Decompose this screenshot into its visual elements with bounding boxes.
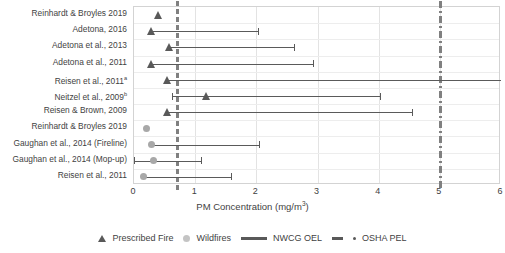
- study-label-text: Adetona et al., 2013: [52, 40, 127, 50]
- y-gridline: [134, 104, 499, 105]
- data-point-wildfires: [143, 125, 150, 132]
- study-label: Neitzel et al., 2009b: [55, 90, 128, 102]
- error-bar-cap-high: [258, 28, 259, 35]
- study-label-text: Neitzel et al., 2009: [55, 92, 124, 102]
- error-bar: [168, 112, 413, 113]
- study-label: Reisen et al., 2011: [58, 171, 127, 180]
- legend-label: OSHA PEL: [362, 233, 407, 243]
- study-label: Gaughan et al., 2014 (Fireline): [13, 139, 127, 148]
- study-label-footnote: b: [124, 91, 127, 97]
- y-gridline: [134, 39, 499, 40]
- error-bar: [168, 80, 501, 81]
- error-bar-cap-low: [134, 157, 135, 164]
- study-label-text: Reisen et al., 2011: [55, 76, 124, 86]
- error-bar: [151, 64, 312, 65]
- study-label: Adetona et al., 2011: [53, 58, 127, 67]
- y-axis-category-labels: Reinhardt & Broyles 2019Adetona, 2016Ade…: [0, 0, 130, 190]
- study-label: Reisen & Brown, 2009: [44, 106, 127, 115]
- data-point-prescribed-fire: [163, 108, 171, 116]
- error-bar-cap-high: [313, 60, 314, 67]
- x-tick-label: 5: [436, 186, 441, 196]
- study-label: Adetona et al., 2013: [52, 41, 127, 50]
- study-label-text: Reinhardt & Broyles 2019: [32, 8, 127, 18]
- x-tick-label: 6: [497, 186, 502, 196]
- legend-item-wildfires[interactable]: Wildfires: [183, 233, 231, 243]
- data-point-wildfires: [140, 173, 147, 180]
- legend-label: NWCG OEL: [273, 233, 322, 243]
- chart-container: Reinhardt & Broyles 2019Adetona, 2016Ade…: [0, 0, 505, 253]
- data-point-prescribed-fire: [147, 27, 155, 35]
- legend-dash-dot-line-icon: [332, 237, 343, 240]
- data-point-wildfires: [148, 141, 155, 148]
- y-gridline: [134, 72, 499, 73]
- data-point-prescribed-fire: [163, 76, 171, 84]
- y-gridline: [134, 88, 499, 89]
- plot-area: [133, 6, 500, 184]
- study-label-text: Gaughan et al., 2014 (Mop-up): [12, 154, 127, 164]
- x-tick-label: 4: [375, 186, 380, 196]
- y-gridline: [134, 56, 499, 57]
- error-bar: [134, 161, 201, 162]
- error-bar: [151, 145, 259, 146]
- legend-label: Prescribed Fire: [112, 233, 173, 243]
- x-gridline: [195, 7, 196, 183]
- legend-item-osha-pel[interactable]: OSHA PEL: [332, 233, 407, 243]
- legend-dot-icon: [353, 237, 356, 240]
- y-gridline: [134, 23, 499, 24]
- x-tick-label: 3: [314, 186, 319, 196]
- study-label: Reinhardt & Broyles 2019: [32, 9, 127, 18]
- study-label-text: Reisen & Brown, 2009: [44, 105, 127, 115]
- legend-item-prescribed-fire[interactable]: Prescribed Fire: [98, 233, 173, 243]
- data-point-prescribed-fire: [154, 11, 162, 19]
- legend-circle-icon: [183, 235, 190, 242]
- y-gridline: [134, 153, 499, 154]
- legend-solid-line-icon: [241, 237, 267, 240]
- y-gridline: [134, 120, 499, 121]
- x-axis-title-tail: ): [306, 201, 309, 212]
- study-label-text: Adetona et al., 2011: [53, 57, 127, 67]
- x-tick-label: 1: [192, 186, 197, 196]
- study-label-text: Adetona, 2016: [73, 24, 128, 34]
- legend-label: Wildfires: [196, 233, 231, 243]
- study-label-text: Gaughan et al., 2014 (Fireline): [13, 138, 127, 148]
- error-bar-cap-high: [380, 93, 381, 100]
- data-point-prescribed-fire: [165, 43, 173, 51]
- x-tick-label: 2: [253, 186, 258, 196]
- y-gridline: [134, 169, 499, 170]
- data-point-prescribed-fire: [147, 60, 155, 68]
- error-bar-cap-low: [172, 93, 173, 100]
- reference-line-osha-pel: [439, 1, 442, 191]
- study-label-footnote: a: [124, 75, 127, 81]
- data-point-prescribed-fire: [202, 92, 210, 100]
- study-label-text: Reisen et al., 2011: [58, 170, 127, 180]
- x-gridline: [318, 7, 319, 183]
- error-bar: [151, 31, 257, 32]
- error-bar-cap-high: [201, 157, 202, 164]
- study-label: Reinhardt & Broyles 2019: [32, 122, 127, 131]
- y-gridline: [134, 136, 499, 137]
- error-bar-cap-high: [412, 109, 413, 116]
- data-point-wildfires: [150, 157, 157, 164]
- study-label-text: Reinhardt & Broyles 2019: [32, 121, 127, 131]
- study-label: Adetona, 2016: [73, 25, 128, 34]
- error-bar-cap-high: [294, 44, 295, 51]
- x-axis-title-base: PM Concentration (mg/m: [196, 201, 302, 212]
- error-bar: [143, 177, 230, 178]
- error-bar-cap-high: [231, 173, 232, 180]
- legend-triangle-icon: [98, 235, 106, 242]
- study-label: Gaughan et al., 2014 (Mop-up): [12, 155, 127, 164]
- error-bar: [169, 47, 294, 48]
- error-bar-cap-high: [259, 141, 260, 148]
- x-tick-label: 0: [130, 186, 135, 196]
- chart-legend: Prescribed FireWildfiresNWCG OELOSHA PEL: [0, 228, 505, 248]
- study-label: Reisen et al., 2011a: [55, 74, 127, 86]
- legend-item-nwcg-oel[interactable]: NWCG OEL: [241, 233, 322, 243]
- x-axis-title: PM Concentration (mg/m3): [0, 200, 505, 212]
